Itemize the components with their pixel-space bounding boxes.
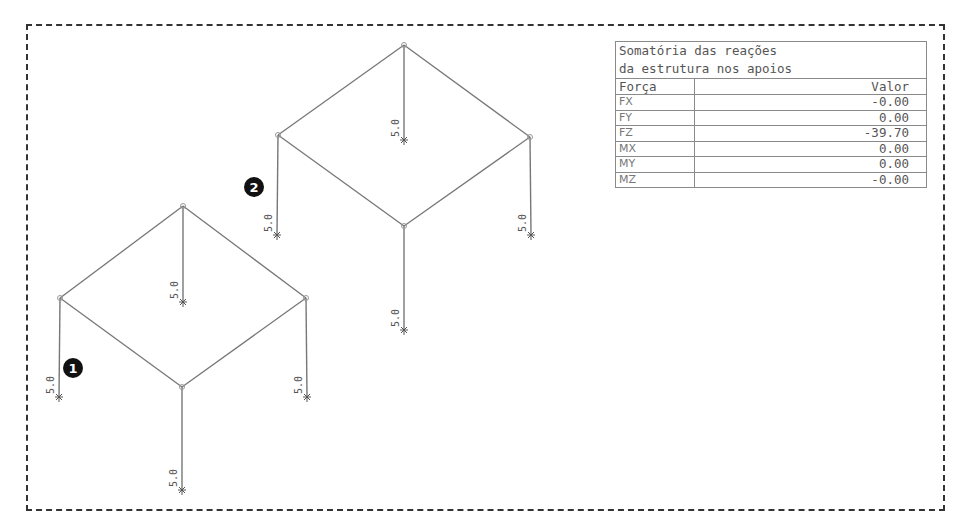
row-value: -39.70 <box>695 126 927 142</box>
row-value: 0.00 <box>695 157 927 173</box>
table-row: MY 0.00 <box>616 157 926 173</box>
table-row: FX -0.00 <box>616 95 926 111</box>
row-force: FY <box>616 110 695 126</box>
table-row: MZ -0.00 <box>616 172 926 187</box>
row-value: -0.00 <box>695 95 927 111</box>
row-force: MZ <box>616 172 695 187</box>
table-row: FZ -39.70 <box>616 126 926 142</box>
row-value: 0.00 <box>695 110 927 126</box>
row-value: 0.00 <box>695 141 927 157</box>
table-header-row: Força Valor <box>616 79 926 95</box>
row-value: -0.00 <box>695 172 927 187</box>
row-force: MY <box>616 157 695 173</box>
table-row: FY 0.00 <box>616 110 926 126</box>
header-force: Força <box>616 79 695 95</box>
row-force: FX <box>616 95 695 111</box>
row-force: MX <box>616 141 695 157</box>
table-title-line-1: Somatória das reações <box>616 42 926 60</box>
reactions-summary-table: Somatória das reações da estrutura nos a… <box>615 41 927 188</box>
table-row: MX 0.00 <box>616 141 926 157</box>
reactions-grid: Força Valor FX -0.00 FY 0.00 FZ -39.70 M… <box>616 78 926 187</box>
row-force: FZ <box>616 126 695 142</box>
header-value: Valor <box>695 79 927 95</box>
table-title-line-2: da estrutura nos apoios <box>616 60 926 78</box>
